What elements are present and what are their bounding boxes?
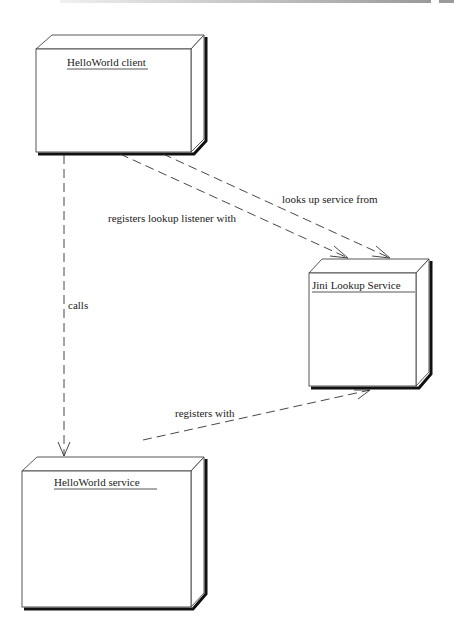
- node-title: HelloWorld client: [67, 56, 146, 68]
- node-helloworld-service: HelloWorld service: [22, 457, 206, 609]
- node-title: HelloWorld service: [54, 476, 140, 488]
- node-helloworld-client: HelloWorld client: [36, 35, 206, 154]
- node-top-face: [22, 457, 204, 471]
- node-side-face: [416, 259, 429, 386]
- edge-registers-with: registers with: [143, 390, 370, 440]
- node-top-face: [309, 259, 429, 273]
- dashed-dependency-line: [163, 154, 390, 258]
- node-jini-lookup-service: Jini Lookup Service: [309, 259, 431, 388]
- edge-label: registers lookup listener with: [108, 212, 237, 224]
- edge-label: looks up service from: [282, 193, 378, 205]
- node-front-face: [22, 471, 191, 607]
- edge-calls: calls: [58, 155, 88, 456]
- edge-label: registers with: [175, 407, 235, 419]
- node-side-face: [191, 457, 204, 607]
- open-arrowhead-icon: [372, 246, 390, 258]
- dashed-dependency-line: [120, 154, 348, 258]
- edge-looks-up-service-from: looks up service from: [163, 154, 390, 258]
- node-top-face: [36, 35, 204, 49]
- deployment-diagram: HelloWorld client Jini Lookup Service He…: [0, 0, 454, 635]
- node-side-face: [191, 35, 204, 152]
- node-title: Jini Lookup Service: [312, 279, 401, 291]
- edge-registers-lookup-listener-with: registers lookup listener with: [108, 154, 348, 258]
- edge-label: calls: [68, 299, 88, 311]
- open-arrowhead-icon: [330, 246, 348, 258]
